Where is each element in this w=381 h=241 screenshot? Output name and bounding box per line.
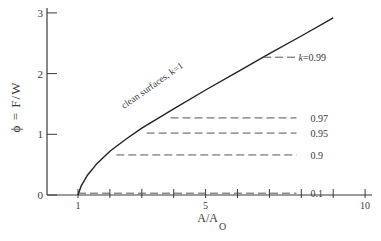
series-label: 0.97 [311,113,329,124]
x-axis-label-subscript: O [219,221,226,232]
x-tick-label: 1 [76,200,81,211]
axes: 01231510 [38,7,373,211]
clean-surfaces-label: clean surfaces, k=1 [119,60,185,110]
series-label: k=0.99 [299,52,327,63]
y-tick-label: 0 [38,189,44,201]
curves [78,18,333,195]
curve-clean-surfaces [78,18,333,195]
x-tick-label: 5 [203,200,208,211]
friction-chart: 01231510 ϕ = F/W A/A O clean surfaces, k… [0,0,381,241]
series-label: 0.1 [311,188,324,199]
y-tick-label: 1 [38,128,44,140]
x-tick-label: 10 [360,200,370,211]
y-tick-label: 2 [38,68,44,80]
series-label: 0.95 [311,128,329,139]
y-tick-label: 3 [38,7,44,19]
labels: ϕ = F/W A/A O clean surfaces, k=1 k=0.99… [8,52,328,232]
chart-plot: 01231510 ϕ = F/W A/A O clean surfaces, k… [0,0,381,241]
series-label: 0.9 [311,150,324,161]
x-axis-label: A/A [197,211,218,225]
y-axis-label: ϕ = F/W [8,82,23,133]
